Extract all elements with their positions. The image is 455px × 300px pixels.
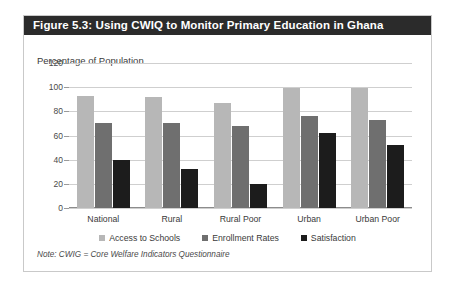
figure-container: Figure 5.3: Using CWIQ to Monitor Primar… xyxy=(23,15,432,272)
bar xyxy=(387,145,404,208)
y-tick-label: 80 xyxy=(54,106,63,116)
x-tick-label: National xyxy=(87,214,119,224)
plot-area: 020406080100120 NationalRuralRural PoorU… xyxy=(69,63,412,208)
bar xyxy=(113,160,130,208)
bar xyxy=(283,88,300,208)
gridline xyxy=(69,208,412,209)
x-tick-label: Urban xyxy=(297,214,321,224)
legend-swatch-icon xyxy=(202,235,208,241)
figure-title-bar: Figure 5.3: Using CWIQ to Monitor Primar… xyxy=(24,16,431,35)
x-tick-label: Urban Poor xyxy=(355,214,399,224)
y-tick-mark xyxy=(64,208,69,209)
y-tick-label: 20 xyxy=(54,179,63,189)
legend-swatch-icon xyxy=(301,235,307,241)
legend-item: Enrollment Rates xyxy=(202,233,279,243)
y-tick-label: 0 xyxy=(58,203,63,213)
y-tick-label: 120 xyxy=(49,58,63,68)
figure-title: Figure 5.3: Using CWIQ to Monitor Primar… xyxy=(33,19,383,31)
bar xyxy=(214,103,231,208)
y-tick-label: 60 xyxy=(54,131,63,141)
bar xyxy=(181,169,198,208)
legend-label: Enrollment Rates xyxy=(212,233,279,243)
bar xyxy=(232,126,249,208)
x-tick-label: Rural xyxy=(162,214,183,224)
legend-swatch-icon xyxy=(99,235,105,241)
bar xyxy=(145,97,162,208)
bar xyxy=(351,88,368,208)
bar-group: Rural Poor xyxy=(206,63,275,208)
legend-item: Access to Schools xyxy=(99,233,180,243)
bar xyxy=(77,96,94,208)
bar-group: Urban Poor xyxy=(343,63,412,208)
bar xyxy=(163,123,180,208)
legend-item: Satisfaction xyxy=(301,233,356,243)
bar xyxy=(250,184,267,208)
chart-legend: Access to SchoolsEnrollment RatesSatisfa… xyxy=(24,233,431,243)
bar-group: Rural xyxy=(138,63,207,208)
bar xyxy=(301,116,318,208)
bar-group: Urban xyxy=(275,63,344,208)
x-tick-label: Rural Poor xyxy=(220,214,262,224)
bar xyxy=(369,120,386,208)
bar-group: National xyxy=(69,63,138,208)
y-tick-label: 100 xyxy=(49,82,63,92)
bar xyxy=(319,133,336,208)
figure-note: Note: CWIG = Core Welfare Indicators Que… xyxy=(37,250,230,259)
y-tick-label: 40 xyxy=(54,155,63,165)
legend-label: Satisfaction xyxy=(311,233,356,243)
legend-label: Access to Schools xyxy=(109,233,180,243)
bar-groups: NationalRuralRural PoorUrbanUrban Poor xyxy=(69,63,412,208)
bar xyxy=(95,123,112,208)
